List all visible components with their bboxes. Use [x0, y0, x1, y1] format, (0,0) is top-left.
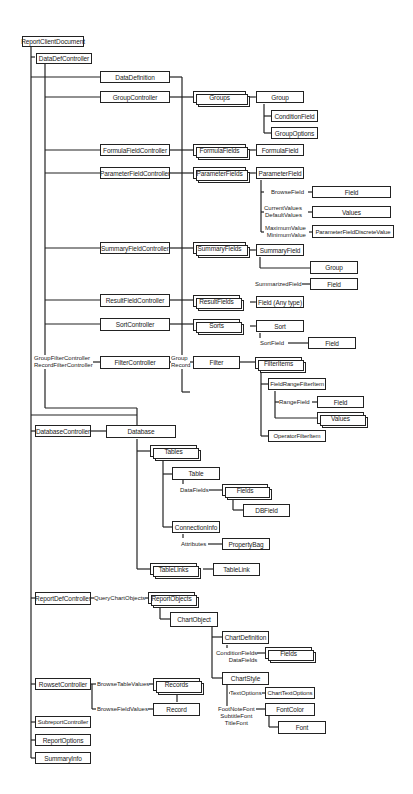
node-property-bag: PropertyBag: [222, 538, 270, 550]
node-database-controller: DatabaseController: [35, 425, 91, 437]
node-record: Record: [153, 703, 200, 716]
node-db-field: DBField: [243, 504, 290, 517]
node-range-values: Values: [317, 412, 364, 424]
label-text-options: TextOptions: [230, 690, 262, 697]
node-summary-field: SummaryField: [256, 244, 304, 256]
node-font-color: FontColor: [265, 703, 315, 716]
label-data-fields: DataFields: [180, 487, 209, 494]
node-summary-group: Group: [310, 261, 358, 274]
node-data-definition: DataDefinition: [100, 71, 170, 83]
node-font: Font: [278, 721, 326, 734]
node-filter-controller: FilterController: [100, 356, 170, 369]
node-chart-text-options: ChartTextOptions: [265, 687, 315, 699]
node-rowset-controller: RowsetController: [35, 678, 91, 690]
node-report-options: ReportOptions: [35, 734, 91, 746]
label-footnote-font: FootNoteFont: [218, 706, 255, 713]
node-browse-field-target: Field: [312, 186, 391, 198]
label-chart-data-fields: DataFields: [216, 657, 257, 664]
label-group-filter-controller: GroupFilterController: [34, 355, 93, 362]
node-parameter-field: ParameterField: [256, 167, 304, 179]
node-chart-style: ChartStyle: [222, 672, 269, 685]
node-chart-definition: ChartDefinition: [222, 631, 269, 644]
node-result-field-controller: ResultFieldController: [100, 294, 170, 307]
node-report-def-controller: ReportDefController: [35, 592, 91, 605]
node-groups: Groups: [193, 91, 246, 103]
node-condition-field: ConditionField: [271, 110, 318, 122]
label-group-record: Group Record: [171, 355, 190, 369]
label-filter-controllers: GroupFilterController RecordFilterContro…: [34, 355, 93, 369]
node-range-field-target: Field: [317, 396, 364, 408]
node-records: Records: [153, 678, 200, 691]
node-table-links: TableLinks: [150, 563, 197, 575]
node-data-def-controller: DataDefController: [36, 53, 92, 64]
node-summarized-field-target: Field: [310, 278, 358, 290]
node-field-range-filter-item: FieldRangeFilterItem: [268, 378, 326, 390]
node-summary-info: SummaryInfo: [35, 752, 91, 764]
node-formula-fields: FormulaFields: [193, 144, 246, 156]
label-minimum-value: MinimumValue: [265, 232, 306, 239]
node-chart-fields: Fields: [265, 647, 312, 659]
node-subreport-controller: SubreportController: [35, 716, 91, 728]
node-summary-fields: SummaryFields: [193, 242, 246, 254]
label-current-values: CurrentValues: [264, 205, 302, 212]
node-result-fields: ResultFields: [193, 295, 240, 307]
node-sorts: Sorts: [193, 319, 240, 331]
node-table-link: TableLink: [213, 563, 260, 576]
label-summarized-field: SummarizedField: [255, 281, 302, 288]
node-fields: Fields: [222, 484, 268, 496]
node-parameter-field-discrete-value: ParameterFieldDiscreteValue: [312, 225, 394, 238]
node-filter: Filter: [193, 356, 240, 369]
node-parameter-fields: ParameterFields: [193, 167, 246, 179]
node-field-any-type: Field (Any type): [256, 296, 304, 308]
object-model-diagram: ReportClientDocument DataDefController D…: [0, 0, 413, 794]
node-connection-info: ConnectionInfo: [172, 521, 220, 533]
label-query-chart-objects: QueryChartObjects: [94, 595, 145, 602]
node-summary-field-controller: SummaryFieldController: [100, 242, 170, 254]
node-formula-field: FormulaField: [256, 144, 304, 156]
label-fonts: FootNoteFont SubtitleFont TitleFont: [218, 706, 255, 727]
label-title-font: TitleFont: [218, 720, 255, 727]
node-sort-controller: SortController: [100, 318, 170, 331]
label-maximum-value: MaximumValue: [265, 225, 306, 232]
node-report-objects: ReportObjects: [148, 592, 195, 604]
node-formula-field-controller: FormulaFieldController: [100, 144, 170, 156]
node-chart-object: ChartObject: [170, 612, 218, 627]
label-subtitle-font: SubtitleFont: [218, 713, 255, 720]
label-max-min-value: MaximumValue MinimumValue: [265, 225, 306, 239]
node-sort: Sort: [256, 320, 304, 332]
node-values: Values: [312, 206, 391, 218]
label-record-filter-controller: RecordFilterController: [34, 362, 93, 369]
label-current-default-values: CurrentValues DefaultValues: [264, 205, 302, 219]
label-chart-fields: ConditionFields DataFields: [216, 650, 257, 664]
label-attributes: Attributes: [181, 541, 206, 548]
node-operator-filter-item: OperatorFilterItem: [268, 430, 326, 442]
label-record: Record: [171, 362, 190, 369]
label-condition-fields: ConditionFields: [216, 650, 257, 657]
label-browse-field-values: BrowseFieldValues: [97, 706, 148, 713]
node-filter-items: FilterItems: [255, 357, 302, 369]
label-default-values: DefaultValues: [264, 212, 302, 219]
node-group-options: GroupOptions: [271, 127, 318, 139]
node-database: Database: [106, 425, 176, 438]
node-report-client-document: ReportClientDocument: [22, 36, 84, 47]
label-group: Group: [171, 355, 190, 362]
node-parameter-field-controller: ParameterFieldController: [100, 167, 170, 179]
node-tables: Tables: [150, 445, 197, 457]
node-sort-field-target: Field: [308, 337, 356, 349]
node-group-controller: GroupController: [100, 91, 170, 103]
node-table: Table: [172, 467, 220, 480]
node-group: Group: [256, 91, 304, 103]
label-browse-table-values: BrowseTableValues: [97, 681, 149, 688]
label-sort-field: SortField: [260, 340, 284, 347]
label-browse-field: BrowseField: [271, 189, 304, 196]
label-range-field: RangeField: [279, 399, 310, 406]
